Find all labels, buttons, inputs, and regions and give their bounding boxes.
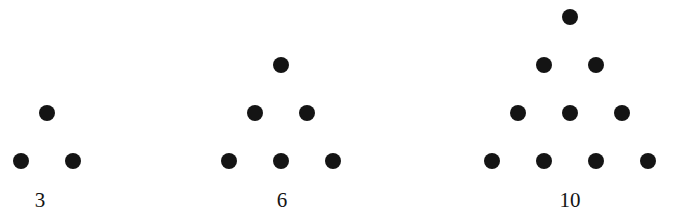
triangle-label-10: 10 — [530, 190, 610, 211]
dot-triangle-10: 10 — [0, 0, 680, 224]
dot — [536, 153, 552, 169]
triangular-numbers-figure: 3610 — [0, 0, 680, 224]
dot — [510, 105, 526, 121]
dot — [562, 9, 578, 25]
dot — [588, 153, 604, 169]
dot — [614, 105, 630, 121]
dot — [562, 105, 578, 121]
dot — [588, 57, 604, 73]
dot — [640, 153, 656, 169]
dot — [536, 57, 552, 73]
dot — [484, 153, 500, 169]
